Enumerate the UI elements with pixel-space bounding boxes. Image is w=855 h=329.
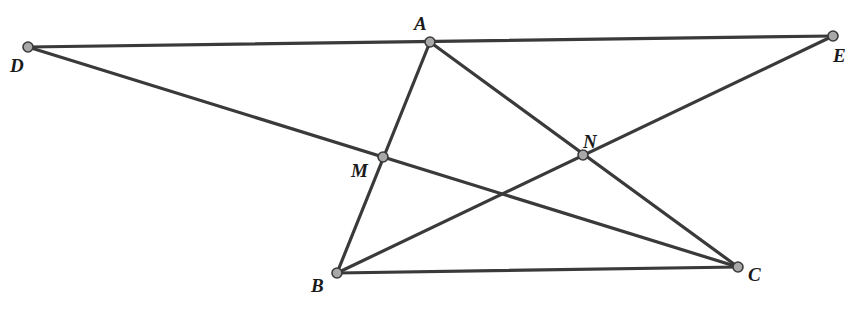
point-d xyxy=(23,42,33,52)
point-a xyxy=(425,37,435,47)
segments xyxy=(28,36,833,273)
label-n: N xyxy=(582,131,598,152)
points xyxy=(23,31,838,278)
point-m xyxy=(378,152,388,162)
geometry-diagram: ABCDEMN xyxy=(0,0,855,329)
label-d: D xyxy=(9,55,24,76)
segment-bc xyxy=(337,267,738,273)
label-a: A xyxy=(413,13,427,34)
label-m: M xyxy=(350,160,369,181)
point-b xyxy=(332,268,342,278)
label-e: E xyxy=(832,45,846,66)
point-e xyxy=(828,31,838,41)
point-c xyxy=(733,262,743,272)
label-c: C xyxy=(748,264,761,285)
label-b: B xyxy=(310,275,324,296)
